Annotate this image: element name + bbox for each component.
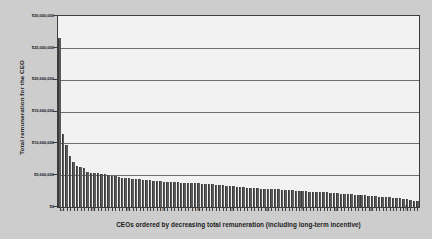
- x-axis-tick-mark: [115, 208, 116, 211]
- x-axis-tick-mark: [108, 208, 109, 211]
- bar: [138, 179, 141, 207]
- bar: [367, 196, 370, 207]
- x-axis-tick-mark: [153, 208, 154, 211]
- x-axis-tick-mark: [396, 208, 397, 211]
- x-axis-tick-label: 60: [266, 207, 270, 211]
- y-axis-tick-label: $25,000,000: [0, 45, 54, 50]
- bar: [291, 190, 294, 207]
- x-axis-tick-label: 30: [162, 207, 166, 211]
- x-axis-tick-mark: [358, 208, 359, 211]
- bar: [97, 173, 100, 207]
- bar: [111, 176, 114, 207]
- bar: [336, 193, 339, 207]
- x-axis-tick-mark: [67, 208, 68, 211]
- bar: [107, 175, 110, 207]
- x-axis-tick-mark: [282, 208, 283, 211]
- x-axis-tick-mark: [237, 208, 238, 211]
- bar: [395, 198, 398, 207]
- bar: [385, 197, 388, 207]
- bar: [381, 197, 384, 207]
- x-axis-tick-mark: [122, 208, 123, 211]
- x-axis-tick-mark: [271, 208, 272, 211]
- bar: [62, 134, 65, 207]
- x-axis-tick-mark: [362, 208, 363, 211]
- x-axis-tick-mark: [275, 208, 276, 211]
- x-axis-tick-mark: [251, 208, 252, 211]
- x-axis-tick-mark: [223, 208, 224, 211]
- bar: [239, 187, 242, 207]
- x-axis-tick-mark: [188, 208, 189, 211]
- x-axis-tick-label: 90: [370, 207, 374, 211]
- y-axis-tick-label: $0: [0, 204, 54, 209]
- x-axis-tick-mark: [327, 208, 328, 211]
- bar: [180, 183, 183, 208]
- bar: [104, 174, 107, 207]
- x-axis-tick-mark: [167, 208, 168, 211]
- x-axis-tick-mark: [88, 208, 89, 211]
- bar: [242, 187, 245, 207]
- bar: [83, 168, 86, 207]
- x-axis-tick-mark: [105, 208, 106, 211]
- x-axis-tick-mark: [390, 208, 391, 211]
- x-axis-tick-mark: [414, 208, 415, 211]
- bar: [388, 197, 391, 207]
- bar-series: [58, 16, 419, 207]
- x-axis-tick-mark: [181, 208, 182, 211]
- bar: [416, 201, 419, 207]
- bar: [86, 172, 89, 207]
- y-axis-tick-label: $15,000,000: [0, 108, 54, 113]
- bar: [392, 198, 395, 207]
- bar: [187, 183, 190, 207]
- x-axis-tick-mark: [320, 208, 321, 211]
- bar: [329, 193, 332, 207]
- bar: [260, 189, 263, 207]
- bar: [350, 194, 353, 207]
- bar: [343, 194, 346, 207]
- bar: [249, 188, 252, 207]
- bar: [152, 181, 155, 207]
- bar: [288, 190, 291, 207]
- x-axis-tick-mark: [70, 208, 71, 211]
- x-axis-tick-mark: [216, 208, 217, 211]
- bar: [378, 197, 381, 208]
- x-axis-tick-mark: [119, 208, 120, 211]
- bar: [308, 192, 311, 207]
- x-axis-tick-mark: [254, 208, 255, 211]
- x-axis-tick-mark: [178, 208, 179, 211]
- x-axis-tick-mark: [261, 208, 262, 211]
- bar: [236, 187, 239, 207]
- bar: [399, 198, 402, 207]
- y-axis-tick-label: $20,000,000: [0, 76, 54, 81]
- x-axis-tick-mark: [195, 208, 196, 211]
- bar: [274, 189, 277, 207]
- x-axis-tick-mark: [386, 208, 387, 211]
- bar: [340, 194, 343, 207]
- x-axis-tick-mark: [206, 208, 207, 211]
- x-axis-tick-mark: [240, 208, 241, 211]
- x-axis-tick-mark: [313, 208, 314, 211]
- x-axis-tick-mark: [341, 208, 342, 211]
- bar: [281, 190, 284, 208]
- bar: [163, 182, 166, 207]
- bar: [333, 193, 336, 207]
- y-axis-tick-label: $10,000,000: [0, 140, 54, 145]
- bar: [76, 166, 79, 207]
- x-axis-tick-mark: [324, 208, 325, 211]
- x-axis-tick-mark: [98, 208, 99, 211]
- bar: [211, 184, 214, 207]
- bar: [159, 181, 162, 207]
- x-axis-tick-label: 40: [197, 207, 201, 211]
- bar: [215, 185, 218, 207]
- bar: [246, 188, 249, 207]
- x-axis-tick-mark: [383, 208, 384, 211]
- bar: [253, 188, 256, 207]
- x-axis-tick-mark: [192, 208, 193, 211]
- x-axis-tick-mark: [185, 208, 186, 211]
- bar: [118, 177, 121, 207]
- y-axis-tick-label: $30,000,000: [0, 13, 54, 18]
- bar: [72, 162, 75, 207]
- x-axis-tick-mark: [226, 208, 227, 211]
- x-axis-tick-mark: [379, 208, 380, 211]
- x-axis-tick-mark: [400, 208, 401, 211]
- x-axis-tick-mark: [209, 208, 210, 211]
